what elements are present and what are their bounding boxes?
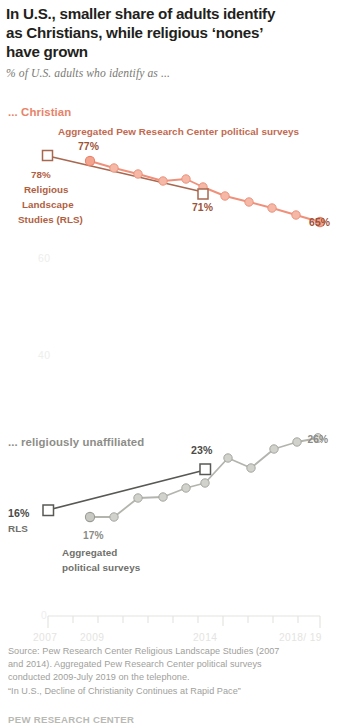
rls-marker-2014 bbox=[200, 464, 211, 475]
x-axis-label-2014: 2014 bbox=[193, 632, 217, 643]
christian-rls-caption-3: Studies (RLS) bbox=[18, 214, 83, 225]
source-line-2: and 2014). Aggregated Pew Research Cente… bbox=[8, 658, 344, 671]
data-point bbox=[159, 177, 167, 185]
x-axis-line bbox=[48, 616, 320, 628]
data-point bbox=[293, 438, 301, 446]
x-axis: 2007 2009 2014 2018/ 19 bbox=[33, 616, 322, 643]
data-point bbox=[134, 494, 142, 502]
christian-value-71: 71% bbox=[192, 202, 213, 213]
data-point bbox=[182, 484, 190, 492]
x-axis-label-2009: 2009 bbox=[80, 632, 104, 643]
christian-value-77: 77% bbox=[78, 141, 99, 152]
panel-label-christian: ... Christian bbox=[8, 106, 71, 118]
source-line-1: Source: Pew Research Center Religious La… bbox=[8, 645, 344, 658]
x-axis-ticks bbox=[73, 616, 298, 626]
data-point bbox=[85, 512, 94, 521]
y-axis-label-40: 40 bbox=[38, 350, 50, 361]
source-line-3: conducted 2009-July 2019 on the telephon… bbox=[8, 671, 344, 684]
unaffiliated-value-16: 16% bbox=[8, 507, 30, 519]
data-point bbox=[134, 170, 142, 178]
christian-rls-caption-1: Religious bbox=[24, 184, 69, 195]
data-point bbox=[182, 175, 190, 183]
report-title: “In U.S., Decline of Christianity Contin… bbox=[8, 685, 344, 698]
rls-marker-2007 bbox=[43, 505, 54, 516]
x-axis-label-2018-19: 2018/ 19 bbox=[279, 632, 322, 643]
title-line-1: In U.S., smaller share of adults identif… bbox=[6, 5, 275, 22]
chart-footer: Source: Pew Research Center Religious La… bbox=[8, 645, 344, 698]
title-line-2: as Christians, while religious ‘nones’ bbox=[6, 24, 263, 41]
data-point bbox=[292, 211, 300, 219]
data-point bbox=[224, 454, 232, 462]
page-title: In U.S., smaller share of adults identif… bbox=[6, 4, 344, 61]
data-point bbox=[270, 445, 278, 453]
unaffiliated-value-23: 23% bbox=[191, 444, 213, 456]
x-axis-label-2007: 2007 bbox=[33, 632, 57, 643]
pew-research-center-brand: PEW RESEARCH CENTER bbox=[8, 714, 134, 725]
unaffiliated-value-17: 17% bbox=[83, 530, 104, 541]
christian-value-65: 65% bbox=[309, 217, 330, 228]
christian-series-caption: Aggregated Pew Research Center political… bbox=[58, 126, 300, 137]
unaffiliated-caption-1: Aggregated bbox=[62, 547, 117, 558]
data-point bbox=[247, 464, 255, 472]
y-axis-label-60: 60 bbox=[38, 253, 50, 264]
panel-religiously-unaffiliated: ... religiously unaffiliated 16% RLS bbox=[8, 434, 328, 573]
title-line-3: have grown bbox=[6, 43, 88, 60]
christian-rls-caption-2: Landscape bbox=[22, 199, 74, 210]
panel-christian: ... Christian Aggregated Pew Research Ce… bbox=[8, 106, 330, 228]
unaffiliated-value-26: 26% bbox=[307, 434, 328, 445]
chart-plot-area: 60 40 0 ... Christian Aggregated Pew Res… bbox=[0, 98, 350, 643]
data-point bbox=[268, 204, 276, 212]
data-point bbox=[245, 198, 253, 206]
data-point bbox=[85, 156, 94, 165]
y-axis-label-0: 0 bbox=[41, 610, 47, 621]
rls-marker-2014 bbox=[198, 189, 208, 199]
panel-label-unaffiliated: ... religiously unaffiliated bbox=[8, 436, 144, 448]
rls-marker-2007 bbox=[43, 151, 53, 161]
data-point bbox=[110, 164, 118, 172]
chart-subtitle: % of U.S. adults who identify as ... bbox=[6, 67, 344, 80]
data-point bbox=[221, 192, 229, 200]
chart-header: In U.S., smaller share of adults identif… bbox=[6, 4, 344, 80]
christian-rls-trend-line bbox=[48, 156, 203, 192]
data-point bbox=[159, 493, 167, 501]
unaffiliated-rls-caption: RLS bbox=[8, 523, 28, 534]
unaffiliated-caption-2: political surveys bbox=[62, 562, 141, 573]
data-point bbox=[201, 479, 209, 487]
christian-rls-value-78: 78% bbox=[31, 169, 51, 180]
data-point bbox=[110, 513, 118, 521]
